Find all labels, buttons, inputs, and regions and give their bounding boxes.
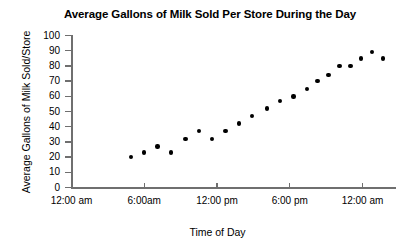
y-axis-tick	[65, 141, 71, 142]
y-axis-tick-label: 80	[20, 61, 60, 71]
y-axis-tick-label: 50	[20, 107, 60, 117]
x-axis-tick	[144, 183, 145, 189]
y-axis-tick-label: 90	[20, 46, 60, 56]
y-axis-tick-label: 100	[20, 31, 60, 41]
y-axis-tick	[65, 50, 71, 51]
data-point	[129, 155, 133, 159]
y-axis-tick	[65, 126, 71, 127]
y-axis-tick	[65, 35, 71, 36]
x-axis-tick	[71, 183, 72, 189]
milk-sales-scatter-chart: Average Gallons of Milk Sold Per Store D…	[0, 0, 420, 252]
data-point	[359, 56, 363, 60]
data-point	[265, 106, 269, 110]
x-axis-title: Time of Day	[70, 226, 365, 238]
y-axis-tick-label: 20	[20, 152, 60, 162]
x-axis-tick-label: 6:00 pm	[250, 195, 330, 206]
data-point	[305, 87, 309, 91]
data-point	[278, 99, 282, 103]
x-axis-tick-label: 12:00 am	[32, 195, 112, 206]
data-point	[250, 114, 254, 118]
y-axis-tick-label: 30	[20, 137, 60, 147]
x-axis-tick	[216, 183, 217, 189]
data-point	[237, 121, 241, 125]
data-point	[326, 73, 330, 77]
plot-area: 0102030405060708090100 12:00 am6:00am12:…	[0, 0, 420, 252]
y-axis-tick	[65, 65, 71, 66]
y-axis-tick	[65, 111, 71, 112]
data-point	[210, 137, 214, 141]
x-axis-tick	[289, 183, 290, 189]
data-point	[348, 64, 352, 68]
data-point	[183, 137, 187, 141]
data-point	[155, 144, 159, 148]
data-point	[381, 56, 385, 60]
y-axis-tick-label: 60	[20, 91, 60, 101]
y-axis-tick-label: 10	[20, 167, 60, 177]
data-point	[223, 129, 227, 133]
y-axis-tick-label: 70	[20, 76, 60, 86]
y-axis-tick	[65, 156, 71, 157]
data-point	[370, 50, 374, 54]
x-axis-tick-label: 12:00 am	[323, 195, 403, 206]
data-point	[169, 150, 173, 154]
y-axis-tick	[65, 96, 71, 97]
y-axis-tick-label: 40	[20, 122, 60, 132]
x-axis-tick	[362, 183, 363, 189]
data-point	[142, 150, 146, 154]
x-axis-tick-label: 6:00am	[104, 195, 184, 206]
data-point	[337, 64, 341, 68]
y-axis-tick-label: 0	[20, 183, 60, 193]
y-axis-tick	[65, 80, 71, 81]
data-point	[315, 79, 319, 83]
y-axis-line	[71, 35, 73, 188]
data-point	[197, 129, 201, 133]
x-axis-line	[71, 187, 396, 189]
data-point	[291, 94, 295, 98]
x-axis-tick-label: 12:00 pm	[177, 195, 257, 206]
y-axis-tick	[65, 172, 71, 173]
